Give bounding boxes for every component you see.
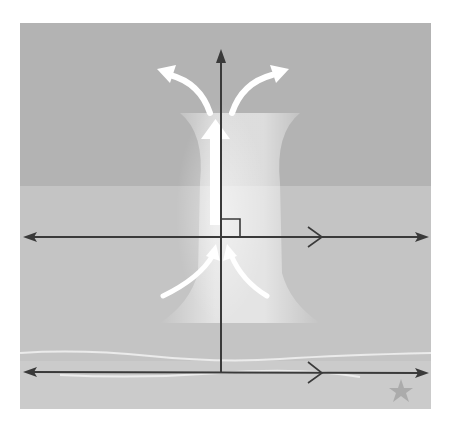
arrow-curve-up-left-icon — [157, 65, 210, 113]
arrowhead-up-icon — [216, 49, 226, 63]
updraft-column — [160, 103, 320, 323]
arrow-curve-up-right-icon — [232, 65, 289, 113]
parallel-line-bottom — [32, 372, 420, 373]
diagram-panel — [20, 23, 431, 409]
parallel-lines-diagram — [20, 23, 431, 409]
star-icon — [389, 379, 413, 402]
